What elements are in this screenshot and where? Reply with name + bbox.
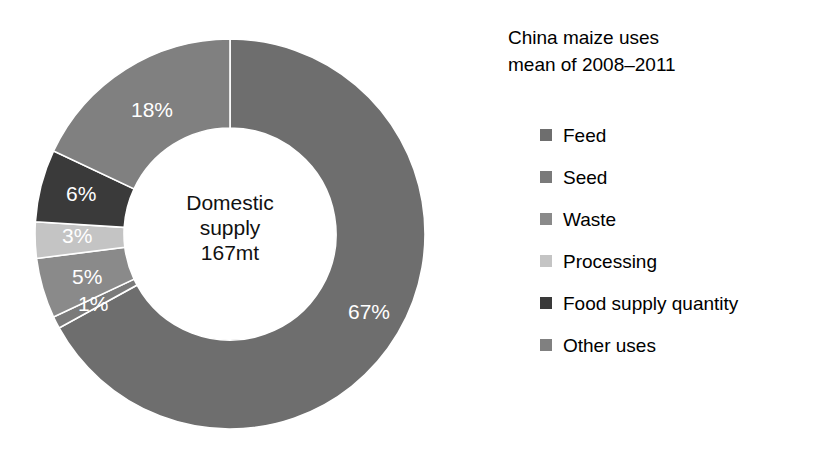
legend-item[interactable]: Other uses (540, 324, 820, 366)
legend-item-label: Food supply quantity (563, 294, 738, 313)
donut-slice-group (35, 39, 425, 429)
legend-list: FeedSeedWasteProcessingFood supply quant… (540, 114, 820, 366)
legend-swatch-icon (540, 255, 552, 267)
legend-item[interactable]: Waste (540, 198, 820, 240)
legend-item[interactable]: Feed (540, 114, 820, 156)
legend-swatch-icon (540, 129, 552, 141)
legend-item-label: Feed (563, 126, 606, 145)
legend-item-label: Processing (563, 252, 657, 271)
donut-svg (0, 0, 480, 456)
legend-item-label: Seed (563, 168, 607, 187)
legend-swatch-icon (540, 339, 552, 351)
donut-chart: Domestic supply 167mt 67% 1% 5% 3% 6% 18… (0, 0, 480, 456)
legend-item[interactable]: Seed (540, 156, 820, 198)
legend-swatch-icon (540, 297, 552, 309)
legend-swatch-icon (540, 213, 552, 225)
legend-swatch-icon (540, 171, 552, 183)
legend-item-label: Waste (563, 210, 616, 229)
legend-item[interactable]: Processing (540, 240, 820, 282)
legend-item[interactable]: Food supply quantity (540, 282, 820, 324)
chart-title: China maize uses mean of 2008–2011 (508, 24, 676, 78)
legend-panel: China maize uses mean of 2008–2011 FeedS… (498, 0, 820, 456)
legend-item-label: Other uses (563, 336, 656, 355)
